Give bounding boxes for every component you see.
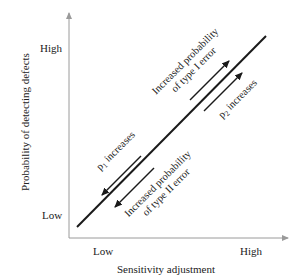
p1-suffix: increases xyxy=(100,129,137,166)
diagram-canvas: High Low Low High Sensitivity adjustment… xyxy=(0,0,304,280)
svg-text:p2 increases: p2 increases xyxy=(216,77,261,122)
x-axis-title: Sensitivity adjustment xyxy=(117,263,215,275)
main-diagonal-line xyxy=(77,36,266,227)
y-tick-high: High xyxy=(40,42,63,54)
type-one-error-line1: Increased probability xyxy=(150,25,221,96)
p2-increases-label: p2 increases xyxy=(216,77,261,122)
x-tick-high: High xyxy=(240,245,263,257)
p1-increases-label: p1 increases xyxy=(94,129,139,174)
y-axis-title: Probability of detecting defects xyxy=(19,53,31,191)
x-tick-low: Low xyxy=(93,245,113,257)
p2-suffix: increases xyxy=(222,77,259,114)
type-two-error-line1: Increased probability xyxy=(122,148,193,219)
type-one-error-label: Increased probability of type I error xyxy=(150,25,230,105)
y-tick-low: Low xyxy=(42,209,62,221)
svg-text:p1 increases: p1 increases xyxy=(94,129,139,174)
